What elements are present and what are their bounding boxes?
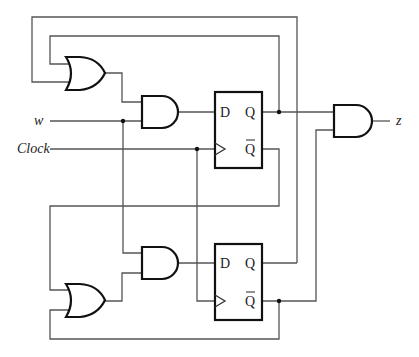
flipflop-2: D Q Q <box>215 244 262 320</box>
ff2-d-label: D <box>220 256 230 271</box>
flipflop-1: D Q Q <box>215 92 262 168</box>
and-gate-2 <box>142 247 178 279</box>
clock-input-label: Clock <box>17 141 50 156</box>
circuit-diagram: D Q Q D Q Q w Clock z <box>0 0 419 357</box>
ff2-qbar-label: Q <box>245 294 255 309</box>
ff1-qbar-label: Q <box>245 142 255 157</box>
w-input-label: w <box>34 113 44 128</box>
or-gate-2 <box>66 284 105 317</box>
z-output-label: z <box>395 113 402 128</box>
and-gate-output <box>334 105 372 137</box>
and-gate-1 <box>142 96 178 128</box>
ff1-q-label: Q <box>245 105 255 120</box>
ff2-q-label: Q <box>245 256 255 271</box>
ff1-d-label: D <box>220 105 230 120</box>
or-gate-1 <box>66 57 105 90</box>
